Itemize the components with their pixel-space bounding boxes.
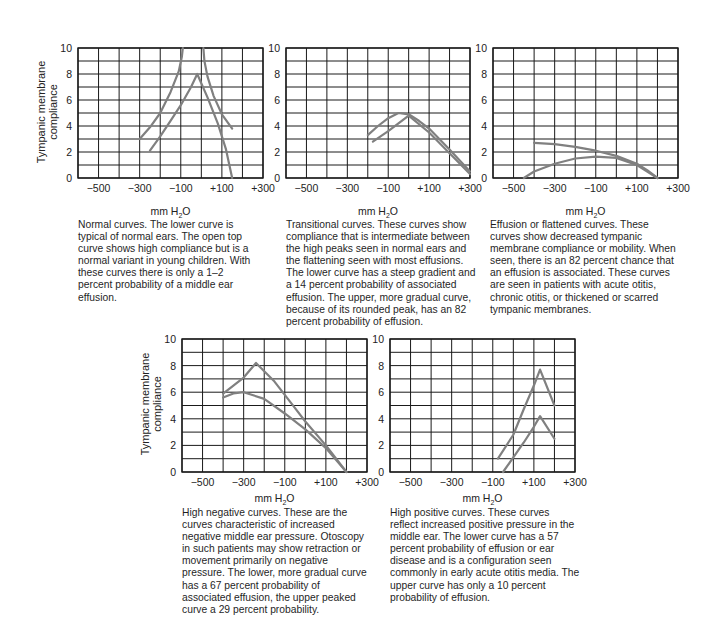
y-tick-label: 6 — [378, 386, 384, 398]
x-tick-label: −300 — [440, 476, 464, 488]
x-axis-label: mm H2O — [390, 492, 575, 506]
chart-high_positive: 0246810−500−300−100+100+300 — [0, 0, 725, 620]
chart-panel-high-positive: 0246810−500−300−100+100+300 mm H2O High … — [0, 0, 725, 620]
x-tick-label: +300 — [563, 476, 587, 488]
y-tick-label: 10 — [372, 333, 384, 345]
caption-high-positive: High positive curves. These curves refle… — [390, 507, 580, 604]
x-tick-label: −100 — [481, 476, 505, 488]
x-tick-label: +100 — [522, 476, 546, 488]
y-tick-label: 0 — [378, 466, 384, 478]
y-tick-label: 4 — [378, 413, 384, 425]
tympanogram-curve — [503, 416, 554, 472]
x-tick-label: −500 — [399, 476, 423, 488]
y-tick-label: 2 — [378, 439, 384, 451]
y-tick-label: 8 — [378, 360, 384, 372]
